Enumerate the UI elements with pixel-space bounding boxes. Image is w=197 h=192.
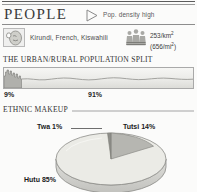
urban-percentage-label: 9% [4,91,14,98]
density-metric-exponent: 2 [171,31,174,36]
speaking-head-icon [3,28,25,47]
people-infographic-panel: PEOPLE Pop. density high Kirundi, French… [0,0,197,192]
ethnic-makeup-pie-chart [52,126,170,192]
population-density-value: 253/km2 (656/mi2) [150,30,176,51]
pie-label-twa: Twa 1% [37,123,62,130]
urban-rural-split-chart [3,67,194,89]
pie-label-tutsi: Tutsi 14% [123,123,155,130]
density-flag-label: Pop. density high [103,11,155,18]
ethnic-heading-rule [72,110,194,112]
languages-text: Kirundi, French, Kiswahili [30,34,108,41]
triangle-right-icon [86,9,98,22]
urban-rural-heading: THE URBAN/RURAL POPULATION SPLIT [3,55,153,64]
top-divider-thin [2,4,195,5]
density-metric: 253/km [150,32,171,39]
twa-leader-line [71,128,102,129]
density-imperial: (656/mi [150,43,171,50]
header-divider [2,24,195,25]
pie-label-hutu: Hutu 85% [24,176,56,183]
rural-percentage-label: 91% [88,91,102,98]
ethnic-makeup-heading: ETHNIC MAKEUP [3,105,68,114]
top-divider-thick [2,1,195,2]
density-imperial-close: ) [174,43,176,50]
people-group-icon [126,28,146,47]
page-title: PEOPLE [4,6,67,22]
